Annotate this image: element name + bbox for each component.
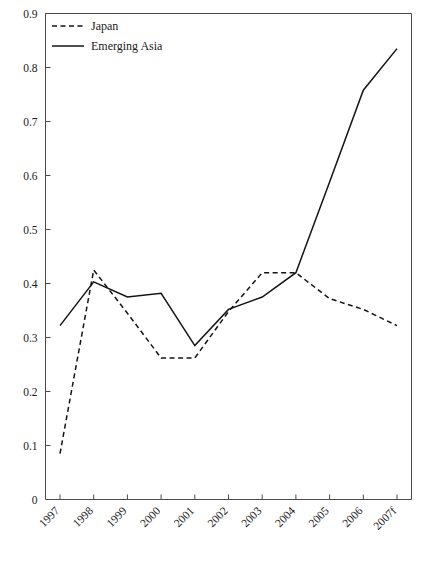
chart-legend: JapanEmerging Asia: [52, 19, 163, 53]
x-tick-label: 1999: [104, 504, 129, 529]
x-tick-label: 2000: [138, 504, 163, 529]
x-tick-label: 2001: [171, 504, 196, 529]
y-tick-label: 0: [32, 494, 38, 506]
chart-canvas: 00.10.20.30.40.50.60.70.80.9 19971998199…: [0, 0, 432, 577]
series-line-emerging-asia: [60, 49, 397, 346]
x-tick-label: 2002: [205, 504, 230, 529]
y-tick-label: 0.1: [23, 440, 38, 452]
x-tick-label: 1997: [37, 504, 62, 529]
x-tick-label: 2007f: [371, 504, 399, 532]
y-tick-label: 0.2: [23, 386, 38, 398]
line-chart: 00.10.20.30.40.50.60.70.80.9 19971998199…: [0, 0, 432, 577]
legend-label-japan: Japan: [91, 19, 118, 33]
x-tick-label: 1998: [70, 504, 95, 529]
legend-label-emerging-asia: Emerging Asia: [91, 39, 163, 53]
y-tick-label: 0.9: [23, 8, 38, 20]
x-tick-label: 2003: [239, 504, 264, 529]
y-axis: 00.10.20.30.40.50.60.70.80.9: [23, 8, 50, 506]
y-tick-label: 0.8: [23, 62, 38, 74]
x-tick-label: 2004: [273, 504, 298, 529]
y-tick-label: 0.7: [23, 116, 38, 128]
y-tick-label: 0.4: [23, 278, 38, 290]
series-layer: [60, 49, 397, 454]
x-tick-label: 2006: [340, 504, 365, 529]
x-axis: 1997199819992000200120022003200420052006…: [37, 14, 412, 532]
series-line-japan: [60, 270, 397, 454]
x-tick-label: 2005: [306, 504, 331, 529]
y-tick-label: 0.6: [23, 170, 38, 182]
y-tick-label: 0.5: [23, 224, 38, 236]
y-tick-label: 0.3: [23, 332, 38, 344]
